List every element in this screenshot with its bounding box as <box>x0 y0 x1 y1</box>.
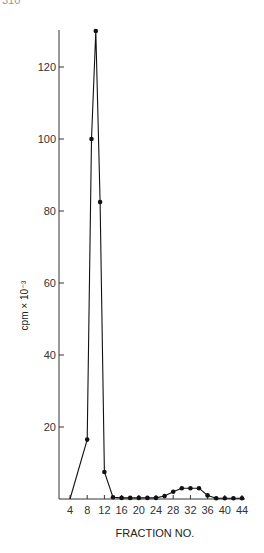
x-tick-label: 24 <box>150 504 162 516</box>
chart: 2040608010012048121620242832364044 <box>0 0 264 553</box>
data-point <box>180 486 185 491</box>
x-tick-label: 4 <box>67 504 73 516</box>
x-tick-label: 40 <box>219 504 231 516</box>
data-point <box>171 490 176 495</box>
data-point <box>188 486 193 491</box>
data-point <box>223 496 228 501</box>
x-tick-label: 44 <box>236 504 248 516</box>
y-tick-label: 120 <box>38 61 56 73</box>
y-tick-label: 60 <box>44 277 56 289</box>
y-tick-label: 20 <box>44 421 56 433</box>
data-point <box>154 496 159 501</box>
data-point <box>94 29 99 34</box>
data-point <box>205 493 210 498</box>
x-tick-label: 16 <box>115 504 127 516</box>
x-tick-label: 28 <box>167 504 179 516</box>
data-point <box>89 137 94 142</box>
x-tick-label: 8 <box>84 504 90 516</box>
x-tick-label: 20 <box>133 504 145 516</box>
data-point <box>137 496 142 501</box>
ticks: 2040608010012048121620242832364044 <box>38 61 248 516</box>
y-tick-label: 80 <box>44 205 56 217</box>
data-point <box>231 496 236 501</box>
y-axis-label: cpm × 10⁻³ <box>19 266 30 346</box>
x-tick-label: 12 <box>98 504 110 516</box>
data-point <box>128 496 133 501</box>
data-point <box>214 496 219 501</box>
data-point <box>85 437 90 442</box>
y-tick-label: 40 <box>44 349 56 361</box>
data-point <box>162 494 167 499</box>
x-tick-label: 32 <box>184 504 196 516</box>
data-point <box>119 496 124 501</box>
data-series <box>70 29 244 501</box>
data-point <box>98 200 103 205</box>
data-point <box>102 470 107 475</box>
data-point <box>111 495 116 500</box>
x-tick-label: 36 <box>201 504 213 516</box>
data-point <box>145 496 150 501</box>
y-tick-label: 100 <box>38 133 56 145</box>
x-axis-label: FRACTION NO. <box>0 527 264 539</box>
data-point <box>197 486 202 491</box>
data-line <box>70 31 242 499</box>
data-point <box>240 496 245 501</box>
